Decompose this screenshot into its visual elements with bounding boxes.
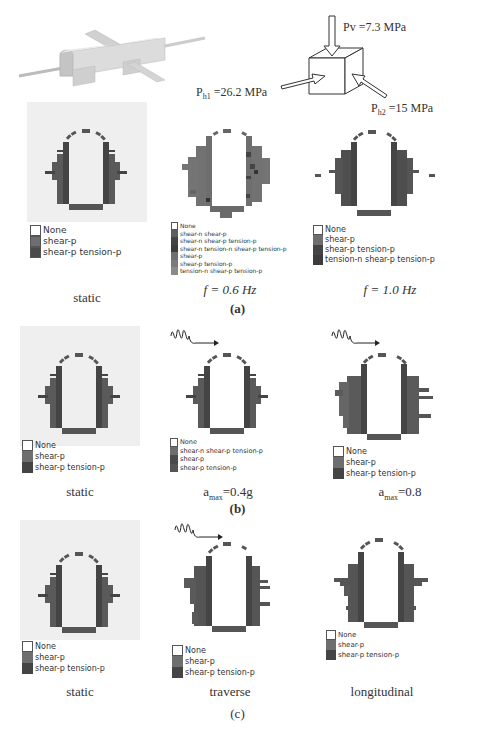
- caption-a-static: static: [27, 290, 147, 306]
- legend-item: shear-p tension-p: [171, 260, 287, 268]
- swatch-none: [333, 446, 344, 457]
- ph1-symbol: P: [196, 85, 203, 99]
- ph1-label: Ph1 =26.2 MPa: [196, 85, 267, 101]
- panel-b-static: [20, 326, 140, 446]
- swatch-shear-n-shear-p-tension-p: [171, 237, 178, 245]
- legend-label: shear-p tension-p: [346, 468, 416, 479]
- seismic-wave-icon: [331, 326, 381, 352]
- legend-b-0.8: None shear-p shear-p tension-p: [333, 446, 416, 479]
- subfigure-label-c: (c): [200, 706, 275, 722]
- legend-item: shear-p tension-p: [170, 464, 263, 473]
- caption-b-0.4g: amax=0.4g: [168, 484, 288, 502]
- legend-item: None: [22, 641, 105, 652]
- legend-label: None: [180, 222, 196, 230]
- swatch-shear-p: [170, 455, 178, 464]
- legend-item: shear-p: [30, 236, 122, 247]
- swatch-none: [22, 641, 33, 652]
- legend-label: shear-p tension-p: [180, 464, 237, 473]
- legend-label: shear-p tension-p: [43, 247, 122, 258]
- legend-item: tension-n shear-p tension-p: [171, 267, 287, 275]
- swatch-none: [22, 440, 33, 451]
- swatch-shear-p: [326, 640, 336, 650]
- legend-label: tension-n shear-p tension-p: [325, 255, 435, 265]
- swatch-none: [326, 630, 336, 640]
- legend-item: shear-p tension-p: [313, 245, 435, 255]
- panel-a-0.6hz: [170, 102, 290, 222]
- panel-b-0.4g: [168, 326, 288, 446]
- legend-label: None: [43, 225, 66, 236]
- legend-item: shear-p tension-p: [30, 247, 122, 258]
- legend-label: shear-p tension-p: [180, 260, 232, 268]
- swatch-shear-p-tension-p: [172, 667, 183, 678]
- legend-item: shear-p tension-p: [326, 650, 399, 660]
- legend-label: shear-p: [338, 640, 364, 650]
- legend-label: shear-p tension-p: [35, 663, 105, 674]
- swatch-shear-p: [172, 656, 183, 667]
- legend-label: shear-p: [185, 656, 215, 667]
- legend-item: shear-p tension-p: [22, 663, 105, 674]
- legend-label: shear-p tension-p: [185, 667, 255, 678]
- swatch-shear-p: [22, 451, 33, 462]
- caption-c-static: static: [20, 684, 140, 700]
- legend-c-longitudinal: None shear-p shear-p tension-p: [326, 630, 399, 660]
- legend-label: None: [338, 630, 356, 640]
- legend-label: shear-p tension-p: [325, 245, 395, 255]
- caption-b-static: static: [20, 484, 140, 500]
- swatch-none: [170, 438, 178, 447]
- legend-item: tension-n shear-p tension-p: [313, 255, 435, 265]
- subfigure-label-a: (a): [200, 301, 275, 317]
- swatch-shear-n-shear-p-tension-p: [170, 447, 178, 456]
- caption-c-longitudinal: longitudinal: [322, 684, 442, 700]
- panel-c-traverse: [170, 520, 290, 640]
- legend-label: shear-p: [180, 252, 202, 260]
- swatch-shear-n-shear-p: [171, 230, 178, 238]
- legend-a-1.0hz: None shear-p shear-p tension-p tension-n…: [313, 225, 435, 265]
- legend-item: None: [22, 440, 105, 451]
- legend-item: None: [313, 225, 435, 235]
- legend-item: None: [30, 225, 122, 236]
- legend-label: shear-p: [43, 236, 77, 247]
- caption-c-traverse: traverse: [170, 684, 290, 700]
- swatch-shear-p: [30, 236, 41, 247]
- legend-item: shear-n shear-p tension-p: [171, 237, 287, 245]
- panel-a-static: [27, 102, 147, 222]
- legend-label: None: [325, 225, 346, 235]
- legend-item: shear-n tension-n shear-p tension-p: [171, 245, 287, 253]
- legend-label: shear-p tension-p: [35, 462, 105, 473]
- legend-label: tension-n shear-p tension-p: [180, 267, 262, 275]
- legend-label: shear-p: [35, 451, 65, 462]
- swatch-none: [172, 645, 183, 656]
- swatch-shear-p-tension-p: [313, 245, 323, 255]
- legend-c-static: None shear-p shear-p tension-p: [22, 641, 105, 674]
- ph1-subscript: h1: [203, 92, 211, 101]
- swatch-shear-p: [171, 252, 178, 260]
- legend-b-static: None shear-p shear-p tension-p: [22, 440, 105, 473]
- legend-label: None: [35, 440, 56, 451]
- swatch-tension-n-shear-p-tension-p: [171, 267, 178, 275]
- caption-a-1.0hz: f = 1.0 Hz: [330, 282, 450, 298]
- legend-label: shear-n tension-n shear-p tension-p: [180, 245, 287, 253]
- legend-label: shear-p: [35, 652, 65, 663]
- legend-item: shear-n shear-p: [171, 230, 287, 238]
- legend-item: shear-p: [333, 457, 416, 468]
- swatch-shear-n-tension-n-shear-p-tension-p: [171, 245, 178, 253]
- legend-label: shear-n shear-p tension-p: [180, 447, 263, 456]
- swatch-shear-p-tension-p: [171, 260, 178, 268]
- swatch-shear-p-tension-p: [30, 247, 41, 258]
- seismic-wave-icon: [174, 520, 224, 546]
- legend-item: shear-p tension-p: [172, 667, 255, 678]
- ph1-value: =26.2 MPa: [214, 85, 267, 99]
- panel-b-0.8: [325, 326, 445, 446]
- swatch-none: [171, 222, 178, 230]
- panel-a-1.0hz: [315, 102, 435, 222]
- swatch-shear-p: [333, 457, 344, 468]
- swatch-shear-p-tension-p: [333, 468, 344, 479]
- panel-c-longitudinal: [322, 520, 442, 640]
- legend-item: shear-p: [22, 451, 105, 462]
- legend-c-traverse: None shear-p shear-p tension-p: [172, 645, 255, 678]
- swatch-none: [30, 225, 41, 236]
- caption-value: =0.8: [398, 484, 422, 499]
- swatch-tension-n-shear-p-tension-p: [313, 255, 323, 265]
- tunnel-3d-model: [15, 20, 210, 90]
- caption-a-0.6hz: f = 0.6 Hz: [170, 282, 290, 298]
